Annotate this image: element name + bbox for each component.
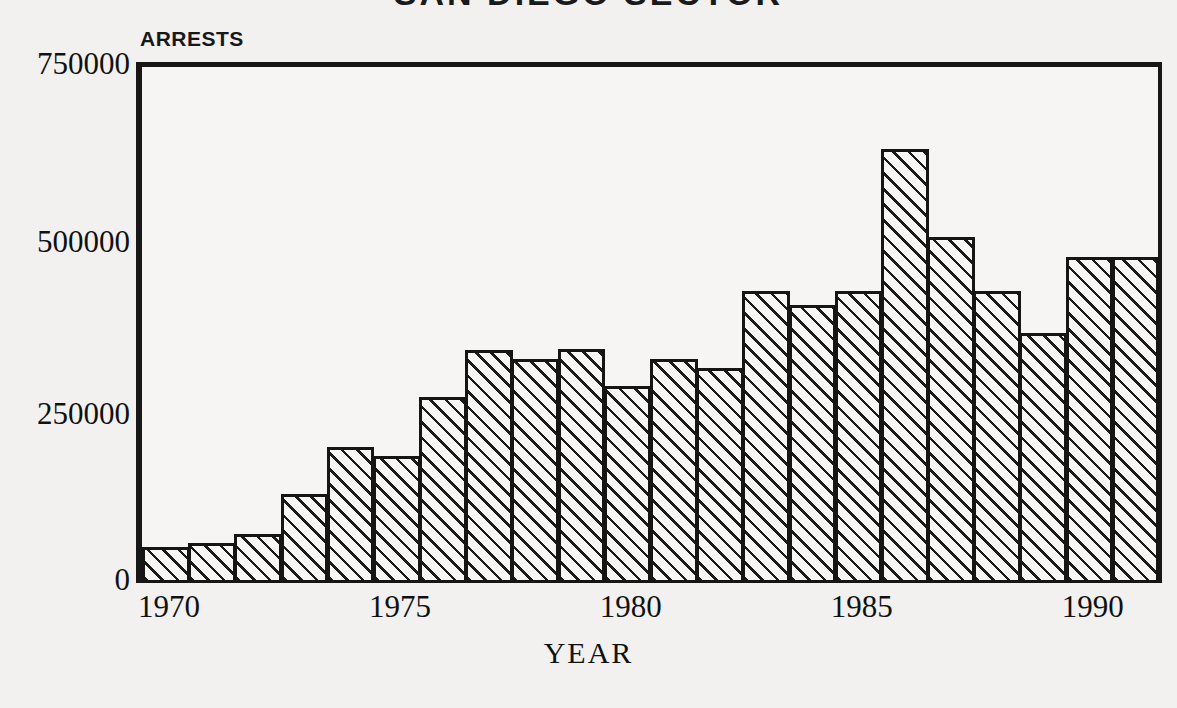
x-tick-label-1970: 1970 — [138, 589, 200, 625]
chart-title: SAN DIEGO SECTOR — [0, 0, 1177, 13]
y-tick-label-250000: 250000 — [6, 396, 130, 432]
bar-1974 — [327, 447, 375, 583]
plot-area — [136, 62, 1162, 583]
x-tick-label-1985: 1985 — [831, 589, 893, 625]
bar-1986 — [881, 149, 929, 583]
y-tick-label-750000: 750000 — [6, 46, 130, 82]
x-tick-label-1990: 1990 — [1062, 589, 1124, 625]
y-tick-label-500000: 500000 — [6, 224, 130, 260]
bar-1991 — [1112, 257, 1160, 583]
bar-1971 — [188, 543, 236, 583]
bar-1985 — [835, 291, 883, 583]
chart-canvas: SAN DIEGO SECTOR ARRESTS 750000 500000 2… — [0, 0, 1177, 708]
bar-1973 — [281, 494, 329, 583]
bar-1978 — [511, 359, 559, 583]
bar-1990 — [1066, 257, 1114, 583]
bar-1979 — [558, 349, 606, 583]
bar-1972 — [234, 534, 282, 583]
bar-1977 — [465, 350, 513, 583]
bar-1983 — [742, 291, 790, 583]
bar-1980 — [604, 386, 652, 583]
bar-1984 — [789, 305, 837, 583]
bar-1970 — [142, 547, 190, 583]
bar-1988 — [973, 291, 1021, 583]
bar-1989 — [1019, 333, 1067, 583]
bars-layer — [142, 67, 1158, 576]
bar-1982 — [696, 368, 744, 583]
bar-1976 — [419, 397, 467, 583]
x-axis-title: YEAR — [0, 636, 1177, 670]
y-tick-label-0: 0 — [6, 562, 130, 598]
bar-1981 — [650, 359, 698, 583]
x-tick-label-1980: 1980 — [600, 589, 662, 625]
x-tick-label-1975: 1975 — [369, 589, 431, 625]
y-axis-title: ARRESTS — [140, 27, 244, 51]
bar-1987 — [927, 237, 975, 583]
bar-1975 — [373, 456, 421, 583]
